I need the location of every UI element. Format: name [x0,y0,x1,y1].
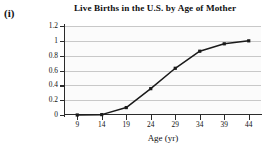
y-axis-tick-label-wrap: 0.8 [38,52,58,60]
x-axis-tick-label: 19 [116,121,136,128]
y-axis-tick-label: 0 [38,111,58,118]
y-axis-tick-label-wrap: 0.2 [38,96,58,104]
x-axis-title: Age (yr) [65,133,261,143]
x-axis-tick-label-wrap: 9 [67,121,87,130]
y-axis-tick-label-wrap: 0 [38,111,58,119]
plot-area [65,26,261,115]
x-axis-tick-label-wrap: 29 [165,121,185,130]
figure-label: (i) [4,8,14,19]
x-axis-tick-label: 44 [239,121,259,128]
x-axis-line [64,114,262,115]
x-axis-tick-label: 29 [165,121,185,128]
gridline [65,56,261,57]
x-axis-tick-label-wrap: 39 [214,121,234,130]
y-axis-tick [60,115,65,116]
y-axis-tick-label-wrap: 0.4 [38,81,58,89]
x-axis-tick-label-wrap: 44 [239,121,259,130]
y-axis-tick [60,41,65,42]
y-axis-tick-label-wrap: 1.2 [38,22,58,30]
gridline [65,100,261,101]
y-axis-tick [60,71,65,72]
y-axis-tick [60,26,65,27]
y-axis-tick-label-wrap: 0.6 [38,67,58,75]
x-axis-tick-label-wrap: 24 [141,121,161,130]
x-axis-tick-label: 34 [190,121,210,128]
chart-figure: (i) Live Births in the U.S. by Age of Mo… [0,0,265,152]
y-axis-tick-label: 1.2 [38,22,58,29]
gridline [65,85,261,86]
chart-title: Live Births in the U.S. by Age of Mother [48,3,262,13]
gridline [65,41,261,42]
x-axis-tick-label: 14 [92,121,112,128]
y-axis-tick-label: 0.6 [38,67,58,74]
x-axis-tick-label: 39 [214,121,234,128]
x-axis-tick-label: 24 [141,121,161,128]
y-axis-tick-label-wrap: 1 [38,37,58,45]
y-axis-tick [60,100,65,101]
x-axis-tick-label-wrap: 34 [190,121,210,130]
y-axis-tick-label: 0.4 [38,81,58,88]
x-axis-tick-label: 9 [67,121,87,128]
y-axis-tick-label: 0.2 [38,96,58,103]
x-axis-tick-label-wrap: 19 [116,121,136,130]
y-axis-tick [60,85,65,86]
y-axis-tick-label: 1 [38,37,58,44]
gridline [65,26,261,27]
gridline [65,71,261,72]
y-axis-tick-label: 0.8 [38,52,58,59]
x-axis-tick-label-wrap: 14 [92,121,112,130]
y-axis-tick [60,56,65,57]
